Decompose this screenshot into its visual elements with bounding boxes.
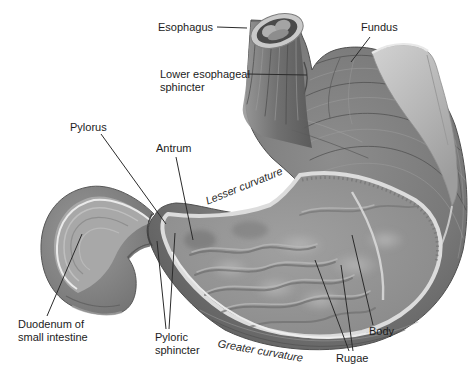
leader-esophagus (217, 27, 247, 28)
label-antrum: Antrum (156, 142, 191, 155)
label-esophagus: Esophagus (140, 21, 213, 34)
label-pylorus: Pylorus (70, 121, 107, 134)
stomach-diagram: Esophagus Fundus Lower esophageal sphinc… (0, 0, 475, 373)
label-pyloric-sphincter: Pyloric sphincter (155, 331, 217, 356)
duodenum-region (41, 186, 154, 314)
label-rugae: Rugae (336, 352, 368, 365)
label-lower-esophageal-sphincter: Lower esophageal sphincter (160, 68, 255, 93)
label-fundus: Fundus (361, 21, 398, 34)
label-duodenum: Duodenum of small intestine (18, 318, 106, 343)
label-body: Body (369, 325, 394, 338)
